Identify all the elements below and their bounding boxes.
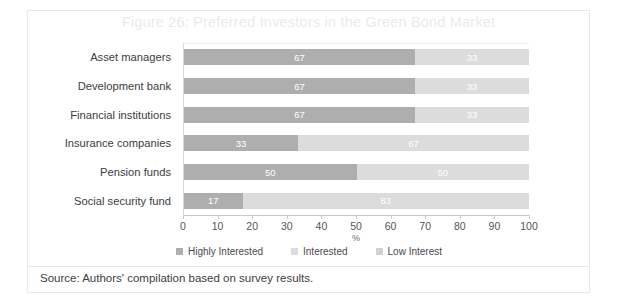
bar-segment: 50: [357, 164, 530, 180]
x-tick-label: 40: [316, 220, 328, 232]
bar-value-label: 67: [294, 109, 305, 120]
figure-title: Figure 26: Preferred Investors in the Gr…: [27, 14, 590, 30]
bar-segment: 67: [298, 135, 529, 151]
legend-label: Highly Interested: [188, 246, 263, 257]
category-label: Pension funds: [100, 164, 171, 180]
bar-segment: 33: [184, 135, 298, 151]
source-divider: [28, 266, 589, 267]
x-tick-label: 30: [281, 220, 293, 232]
legend-label: Interested: [303, 246, 347, 257]
legend-item[interactable]: Low Interest: [376, 246, 442, 257]
category-label: Financial institutions: [70, 107, 171, 123]
bar-row: 1783: [184, 193, 529, 209]
x-tick-mark: [321, 215, 322, 219]
bar-value-label: 50: [265, 167, 276, 178]
category-label: Social security fund: [74, 193, 171, 209]
bar-segment: 33: [415, 107, 529, 123]
bar-segment: 33: [415, 78, 529, 94]
bar-segment: 83: [243, 193, 529, 209]
x-tick-label: 90: [489, 220, 501, 232]
x-tick-label: 70: [419, 220, 431, 232]
legend-swatch-icon: [291, 248, 298, 255]
x-tick-mark: [287, 215, 288, 219]
legend-item[interactable]: Interested: [291, 246, 347, 257]
bar-value-label: 67: [408, 138, 419, 149]
bar-segment: 67: [184, 107, 415, 123]
bar-row: 6733: [184, 78, 529, 94]
x-tick-mark: [183, 215, 184, 219]
legend-item[interactable]: Highly Interested: [176, 246, 263, 257]
x-tick-mark: [425, 215, 426, 219]
x-tick-label: 10: [212, 220, 224, 232]
bar-row: 3367: [184, 135, 529, 151]
x-tick-mark: [252, 215, 253, 219]
bar-value-label: 33: [236, 138, 247, 149]
x-tick-label: 20: [246, 220, 258, 232]
x-tick-mark: [494, 215, 495, 219]
x-tick-mark: [391, 215, 392, 219]
bar-segment: 50: [184, 164, 357, 180]
bar-row: 5050: [184, 164, 529, 180]
category-label: Asset managers: [90, 49, 171, 65]
x-tick-label: 0: [180, 220, 186, 232]
bar-value-label: 33: [467, 52, 478, 63]
bar-value-label: 33: [467, 81, 478, 92]
chart-legend: Highly InterestedInterestedLow Interest: [36, 246, 582, 257]
bar-row: 6733: [184, 49, 529, 65]
x-tick-label: 100: [520, 220, 538, 232]
x-tick-label: 60: [385, 220, 397, 232]
chart-area: Asset managersDevelopment bankFinancial …: [36, 43, 582, 239]
bar-row: 6733: [184, 107, 529, 123]
x-tick-mark: [460, 215, 461, 219]
category-label: Development bank: [78, 78, 171, 94]
bar-value-label: 83: [381, 195, 392, 206]
legend-swatch-icon: [376, 248, 383, 255]
x-tick-mark: [356, 215, 357, 219]
x-axis-tick-labels: 0102030405060708090100: [183, 220, 529, 234]
x-tick-mark: [529, 215, 530, 219]
bar-segment: 33: [415, 49, 529, 65]
bar-value-label: 50: [437, 167, 448, 178]
bar-segment: 17: [184, 193, 243, 209]
category-axis-labels: Asset managersDevelopment bankFinancial …: [36, 43, 177, 215]
bar-segment: 67: [184, 49, 415, 65]
x-tick-label: 50: [350, 220, 362, 232]
legend-label: Low Interest: [388, 246, 442, 257]
x-tick-label: 80: [454, 220, 466, 232]
plot-area: 673367336733336750501783: [183, 43, 529, 215]
bar-value-label: 17: [208, 195, 219, 206]
bar-segment: 67: [184, 78, 415, 94]
source-note: Source: Authors' compilation based on su…: [40, 272, 313, 284]
bar-value-label: 67: [294, 81, 305, 92]
x-axis-title: %: [183, 233, 529, 243]
figure-container: Figure 26: Preferred Investors in the Gr…: [0, 0, 617, 304]
category-label: Insurance companies: [65, 135, 171, 151]
legend-swatch-icon: [176, 248, 183, 255]
x-tick-mark: [218, 215, 219, 219]
bar-value-label: 33: [467, 109, 478, 120]
bar-value-label: 67: [294, 52, 305, 63]
